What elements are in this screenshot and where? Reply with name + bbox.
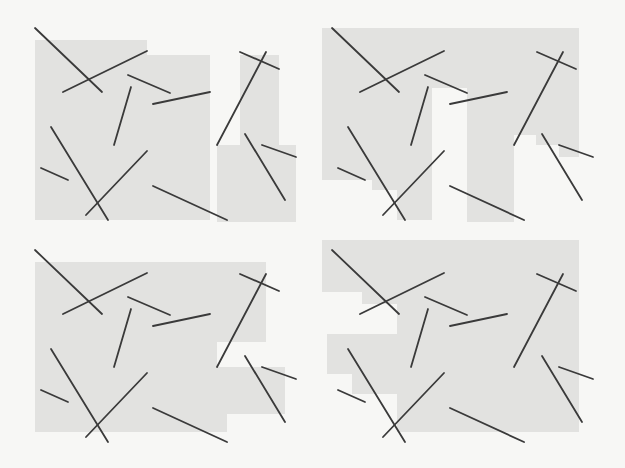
figure: [0, 0, 625, 468]
gray-region: [35, 40, 210, 220]
panel-top-left: [35, 28, 296, 222]
gray-region: [467, 88, 510, 222]
segment-region-diagram: [0, 0, 625, 468]
